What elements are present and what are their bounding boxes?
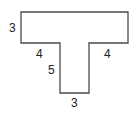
label-right-overhang: 4 (104, 47, 111, 61)
label-top-bar-height: 3 (9, 21, 16, 35)
label-stem-height: 5 (48, 63, 55, 77)
t-shape-diagram: 3 4 4 5 3 (0, 0, 138, 114)
label-left-overhang: 4 (36, 47, 43, 61)
label-stem-width: 3 (71, 96, 78, 110)
